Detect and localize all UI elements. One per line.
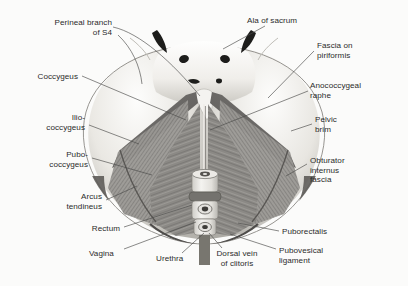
label-fascia-on-piriformis: Fascia on piriformis	[317, 41, 353, 60]
label-pelvic-brim: Pelvic brim	[315, 115, 337, 134]
label-pubovesical-ligament: Pubovesical ligament	[279, 246, 323, 265]
label-rectum: Rectum	[0, 224, 120, 234]
label-obturator-internus-fascia: Obturator internus fascia	[310, 156, 345, 185]
label-pubococcygeus: Pubo- coccygeus	[0, 150, 88, 169]
label-vagina: Vagina	[89, 249, 114, 259]
leader-pubovesical-ligament	[230, 234, 276, 249]
label-anococcygeal-raphe: Anococcygeal raphe	[310, 81, 361, 100]
vagina-cross-section	[192, 201, 218, 219]
label-puborectalis: Puborectalis	[282, 227, 327, 237]
label-coccygeus: Coccygeus	[0, 72, 78, 82]
label-iliococcygeus: Ilio- coccygeus	[0, 113, 85, 132]
label-perineal-branch-s4: Perineal branch of S4	[0, 18, 112, 37]
organ-ring	[189, 192, 221, 201]
sacral-horn-right	[241, 30, 256, 53]
label-dorsal-vein-of-clitoris: Dorsal vein of clitoris	[206, 249, 268, 268]
label-urethra: Urethra	[156, 254, 183, 264]
label-ala-of-sacrum: Ala of sacrum	[247, 16, 297, 26]
urethra-cross-section	[194, 219, 216, 235]
sacral-foramen-right-lower	[216, 79, 222, 84]
pelvic-floor-figure: Perineal branch of S4 Coccygeus Ilio- co…	[0, 0, 408, 286]
label-arcus-tendineus: Arcus tendineus	[0, 192, 102, 211]
rectum-cross-section	[192, 169, 218, 192]
